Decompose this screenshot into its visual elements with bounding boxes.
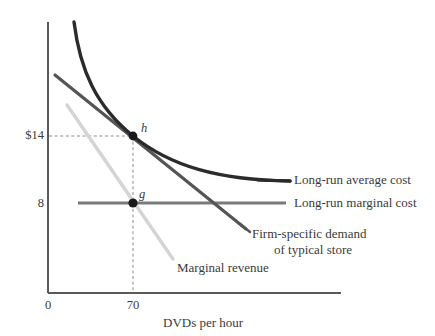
point-label-g: g [139, 187, 145, 201]
firm-demand-label-line2: of typical store [252, 242, 366, 258]
firm-demand-curve-label: Firm-specific demand of typical store [252, 226, 366, 257]
point-label-h: h [141, 121, 147, 135]
point-marker-g[interactable] [128, 198, 137, 207]
point-marker-h[interactable] [129, 132, 138, 141]
x-tick-origin-label: 0 [38, 298, 58, 312]
economics-diagram: $14 8 0 70 DVDs per hour Long-run averag… [0, 0, 435, 336]
firm-demand-line [55, 75, 246, 229]
x-axis-title: DVDs per hour [163, 316, 243, 331]
firm-demand-label-line1: Firm-specific demand [252, 226, 366, 241]
demand-leader-line [240, 224, 250, 232]
lrmc-curve-label: Long-run marginal cost [294, 196, 417, 211]
lrac-leader-line [258, 180, 290, 181]
x-tick-quantity-label: 70 [121, 298, 145, 312]
chart-canvas [0, 0, 435, 336]
y-tick-price-label: $14 [4, 128, 44, 142]
marginal-revenue-curve-label: Marginal revenue [177, 261, 269, 276]
y-tick-cost-label: 8 [4, 196, 44, 210]
long-run-average-cost-curve [74, 22, 290, 181]
lrac-curve-label: Long-run average cost [294, 173, 411, 188]
